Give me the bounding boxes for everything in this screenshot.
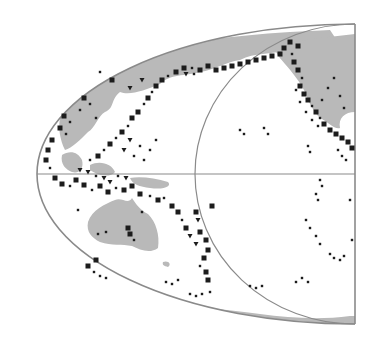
large-event-square-icon [74,178,79,183]
large-event-square-icon [60,182,65,187]
large-event-square-icon [296,44,301,49]
small-event-dot-icon [315,193,317,195]
small-event-dot-icon [295,89,297,91]
large-event-square-icon [214,68,219,73]
large-event-square-icon [302,92,307,97]
small-event-dot-icon [315,235,317,237]
deep-event-triangle-icon [108,180,113,185]
small-event-dot-icon [181,219,183,221]
large-event-square-icon [340,136,345,141]
small-event-dot-icon [307,281,309,283]
small-event-dot-icon [95,117,97,119]
large-event-square-icon [108,142,113,147]
large-event-square-icon [198,230,203,235]
large-event-square-icon [120,130,125,135]
small-event-dot-icon [193,73,195,75]
large-event-square-icon [50,138,55,143]
deep-event-triangle-icon [102,176,107,181]
small-event-dot-icon [321,185,323,187]
small-event-dot-icon [311,119,313,121]
large-event-square-icon [174,70,179,75]
small-event-dot-icon [309,227,311,229]
small-event-dot-icon [249,285,251,287]
large-event-square-icon [176,210,181,215]
deep-event-triangle-icon [194,242,199,247]
small-event-dot-icon [267,133,269,135]
landmass-australia [88,198,159,251]
large-event-square-icon [170,204,175,209]
small-event-dot-icon [105,231,107,233]
landmass-tasmania-nz [163,261,170,267]
small-event-dot-icon [91,189,93,191]
small-event-dot-icon [171,283,173,285]
large-event-square-icon [298,84,303,89]
large-event-square-icon [53,176,58,181]
small-event-dot-icon [339,259,341,261]
large-event-square-icon [82,96,87,101]
large-event-square-icon [346,140,351,145]
small-event-dot-icon [209,291,211,293]
landmass-new-guinea [130,177,169,188]
small-event-dot-icon [301,277,303,279]
large-event-square-icon [314,110,319,115]
large-event-square-icon [270,54,275,59]
small-event-dot-icon [307,145,309,147]
small-event-dot-icon [143,159,145,161]
large-event-square-icon [350,146,355,151]
small-event-dot-icon [199,265,201,267]
small-event-dot-icon [349,199,351,201]
small-event-dot-icon [155,139,157,141]
small-event-dot-icon [167,75,169,77]
small-event-dot-icon [201,293,203,295]
large-event-square-icon [194,210,199,215]
small-event-dot-icon [345,159,347,161]
small-event-dot-icon [117,175,119,177]
small-event-dot-icon [149,195,151,197]
small-event-dot-icon [133,239,135,241]
small-event-dot-icon [329,253,331,255]
large-event-square-icon [94,258,99,263]
large-event-square-icon [306,98,311,103]
large-event-square-icon [246,60,251,65]
small-event-dot-icon [243,133,245,135]
small-event-dot-icon [115,187,117,189]
large-event-square-icon [82,183,87,188]
deep-event-triangle-icon [122,148,127,153]
large-event-square-icon [154,84,159,89]
small-event-dot-icon [103,149,105,151]
small-event-dot-icon [69,121,71,123]
small-event-dot-icon [65,133,67,135]
small-event-dot-icon [261,285,263,287]
large-event-square-icon [184,226,189,231]
small-event-dot-icon [291,53,293,55]
small-event-dot-icon [239,129,241,131]
small-event-dot-icon [151,91,153,93]
small-event-dot-icon [317,125,319,127]
small-event-dot-icon [305,219,307,221]
deep-event-triangle-icon [124,176,129,181]
large-event-square-icon [202,256,207,261]
large-event-square-icon [206,248,211,253]
small-event-dot-icon [127,125,129,127]
small-event-dot-icon [321,99,323,101]
large-event-square-icon [206,278,211,283]
small-event-dot-icon [319,179,321,181]
small-event-dot-icon [115,137,117,139]
large-event-square-icon [96,154,101,159]
small-event-dot-icon [333,257,335,259]
large-event-square-icon [130,116,135,121]
small-event-dot-icon [319,243,321,245]
small-event-dot-icon [143,103,145,105]
large-event-square-icon [160,78,165,83]
small-event-dot-icon [99,71,101,73]
small-event-dot-icon [105,277,107,279]
small-event-dot-icon [79,109,81,111]
small-event-dot-icon [95,175,97,177]
small-event-dot-icon [341,155,343,157]
large-event-square-icon [136,110,141,115]
small-event-dot-icon [97,233,99,235]
small-event-dot-icon [255,287,257,289]
large-event-square-icon [122,188,127,193]
small-event-dot-icon [133,155,135,157]
small-event-dot-icon [301,77,303,79]
